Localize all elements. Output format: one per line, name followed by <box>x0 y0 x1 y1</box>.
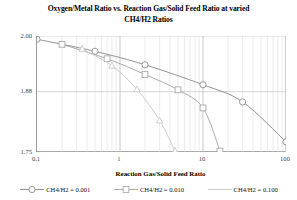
chart-title: Oxygen/Metal Ratio vs. Reaction Gas/Soli… <box>18 4 279 25</box>
series-square <box>59 41 223 152</box>
series-circle <box>37 36 286 145</box>
series-triangle <box>79 46 178 152</box>
plot-area <box>36 36 285 152</box>
x-axis-tick-label: 0.1 <box>22 155 50 162</box>
legend-marker-circle-icon <box>19 185 45 194</box>
y-axis-tick-label: 1.88 <box>6 87 32 94</box>
legend-label: CH4/H2 = 0.010 <box>140 186 184 193</box>
legend-label: CH4/H2 = 0.100 <box>234 186 278 193</box>
legend-label: CH4/H2 = 0.001 <box>46 186 90 193</box>
y-axis-tick-label: 1.75 <box>6 148 32 155</box>
legend-marker-square-icon <box>113 185 139 194</box>
x-axis-tick-label: 100 <box>271 155 297 162</box>
plot-canvas <box>37 36 286 152</box>
legend-item-ch4h2-0001[interactable]: CH4/H2 = 0.001 <box>19 185 90 194</box>
chart-container: Oxygen/Metal Ratio vs. Reaction Gas/Soli… <box>0 0 297 200</box>
chart-legend: CH4/H2 = 0.001 CH4/H2 = 0.010 CH4/H2 = 0… <box>8 182 289 196</box>
chart-title-line1: Oxygen/Metal Ratio vs. Reaction Gas/Soli… <box>48 4 250 13</box>
legend-marker-triangle-icon <box>207 185 233 194</box>
x-axis-title: Reaction Gas/Solid Feed Ratio <box>36 170 285 177</box>
legend-item-ch4h2-0010[interactable]: CH4/H2 = 0.010 <box>113 185 184 194</box>
legend-item-ch4h2-0100[interactable]: CH4/H2 = 0.100 <box>207 185 278 194</box>
x-axis-tick-label: 1 <box>105 155 133 162</box>
chart-title-line2: CH4/H2 Ratios <box>18 15 279 26</box>
x-axis-tick-label: 10 <box>188 155 216 162</box>
y-axis-tick-label: 2.00 <box>6 32 32 39</box>
